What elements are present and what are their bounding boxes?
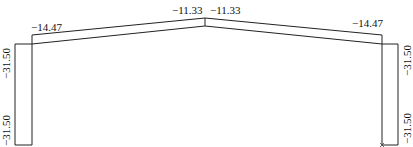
label-apex-right: −11.33 bbox=[210, 4, 241, 16]
label-right-column-top: −31.50 bbox=[401, 45, 413, 76]
label-left-column-top: −31.50 bbox=[0, 48, 12, 79]
force-diagram-outline bbox=[15, 18, 398, 145]
label-right-column-bottom: −31.50 bbox=[401, 113, 413, 144]
label-left-column-bottom: −31.50 bbox=[0, 115, 12, 146]
frame-force-diagram: −14.47 −11.33 −11.33 −14.47 −31.50 −31.5… bbox=[0, 0, 413, 147]
label-right-eave: −14.47 bbox=[352, 17, 383, 29]
structure-lines bbox=[32, 26, 382, 145]
right-column-axial-diagram bbox=[382, 44, 398, 145]
left-column-axial-diagram bbox=[15, 44, 32, 145]
label-left-eave: −14.47 bbox=[31, 21, 62, 33]
label-apex-left: −11.33 bbox=[172, 4, 203, 16]
